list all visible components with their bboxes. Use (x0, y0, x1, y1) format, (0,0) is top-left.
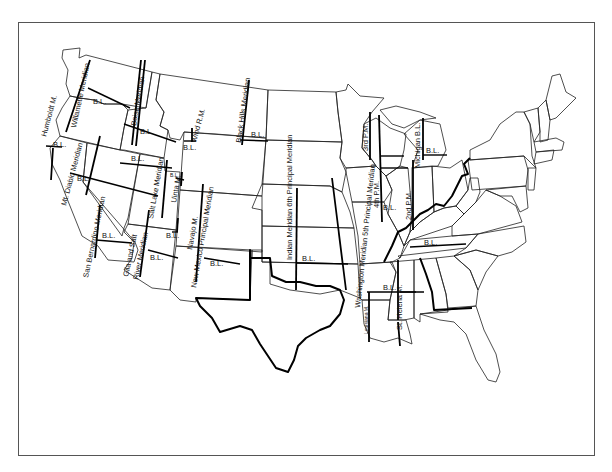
bl-gila-salt: B.L. (150, 253, 163, 262)
bl-indian: B.L. (302, 254, 315, 263)
state-outlines (50, 48, 576, 382)
bl-mt-diablo: B.L. (77, 174, 90, 183)
indian-meridian-line (296, 188, 297, 290)
label-michigan: Michigan B.L. (413, 123, 422, 168)
bl-tennessee: B.L. (424, 238, 437, 247)
bl-boise: B.L. (140, 127, 153, 136)
label-boise: Boise Meridian (129, 76, 146, 126)
label-second-pm: 2nd P.M. (404, 191, 413, 220)
bl-michigan: B.L. (426, 146, 439, 155)
bl-willamette: B.L. (93, 97, 106, 106)
label-fourth-pm: 4th P.M. (372, 181, 381, 208)
navajo-meridian-line (177, 218, 178, 232)
label-wind-river: Wind R.M. (189, 107, 207, 143)
label-willamette: Willamette Meridian (69, 62, 91, 128)
bl-uinta: B.L. (170, 172, 179, 178)
label-third-pm: 3rd P.M. (361, 124, 370, 151)
fifth-principal-meridian-line (332, 178, 346, 290)
bl-fourth-pm: B.L. (383, 203, 396, 212)
label-indian-6th: Indian Meridian 6th Principal Meridian (285, 135, 294, 260)
bl-navajo: B.L. (166, 231, 179, 240)
label-uinta: Uinta M. (169, 174, 183, 203)
bl-washington: B.L. (383, 283, 396, 292)
bl-wind-river: B.L. (183, 143, 196, 152)
bl-salt-lake: B.L. (131, 154, 144, 163)
mt-diablo-meridian-line (86, 136, 100, 195)
label-st-helena: St. Helena M. (395, 285, 404, 330)
label-louisiana: Louisiana M. (363, 306, 369, 334)
humboldt-meridian-line (51, 148, 53, 180)
label-black-hills: Black Hills Meridian (234, 77, 252, 143)
bl-san-bernardino: B.L. (102, 231, 115, 240)
bl-black-hills: B.L. (251, 130, 264, 139)
baseline-lines (46, 88, 466, 292)
bl-new-mexico: B.L. (210, 259, 223, 268)
us-meridians-map: Humboldt M. Willamette Meridian Boise Me… (0, 0, 612, 472)
bl-humboldt: B.L. (53, 140, 66, 149)
label-humboldt: Humboldt M. (39, 94, 59, 137)
